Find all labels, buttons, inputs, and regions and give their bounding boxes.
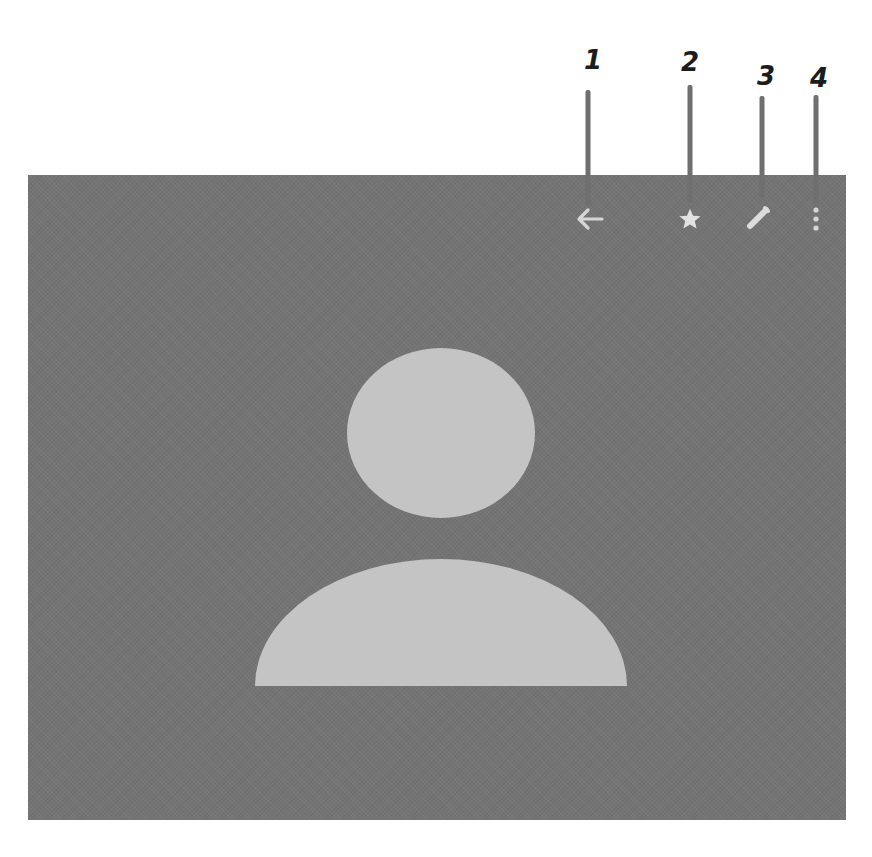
contact-header-panel [28,175,846,820]
more-options-button[interactable] [800,203,832,235]
callout-line-4 [814,95,819,203]
callout-line-2 [688,85,693,203]
edit-button[interactable] [743,201,775,233]
favorite-button[interactable] [674,203,706,235]
avatar-body-shape [255,559,627,686]
star-icon [677,206,703,232]
callout-number-2: 2 [681,49,699,75]
more-vert-icon [811,205,821,233]
callout-line-1 [586,90,591,205]
callout-line-3 [760,96,765,198]
callout-number-3: 3 [757,63,775,89]
pencil-icon [744,202,774,232]
back-arrow-icon [575,207,605,231]
avatar-head-shape [347,348,535,518]
callout-number-1: 1 [584,47,602,73]
back-button[interactable] [574,203,606,235]
callout-number-4: 4 [810,65,828,91]
